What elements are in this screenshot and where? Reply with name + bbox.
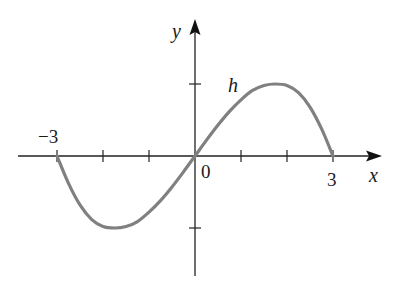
y-axis xyxy=(190,19,201,276)
curve-label-h: h xyxy=(228,74,238,96)
tick-label-3: 3 xyxy=(327,169,337,190)
tick-label-neg3: −3 xyxy=(38,126,58,147)
x-axis xyxy=(18,151,382,162)
function-graph: y x h −3 0 3 xyxy=(0,0,398,284)
x-axis-label: x xyxy=(368,164,378,186)
tick-label-0: 0 xyxy=(201,161,211,182)
y-axis-label: y xyxy=(170,20,181,43)
